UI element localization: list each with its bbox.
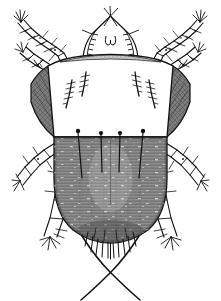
solenidion-dot [39,37,41,39]
solenidion-dot [180,37,182,39]
solenidion-dot [179,60,181,62]
solenidion-dot [54,49,56,51]
solenidion-dot [37,158,39,160]
propodosomal-shield [48,55,173,138]
solenidion-dot [182,158,184,160]
propodosoma-outline [48,55,173,138]
figure-plate [0,0,221,301]
solenidion-dot [40,60,42,62]
solenidion-dot [165,49,167,51]
mite-illustration [0,0,221,301]
